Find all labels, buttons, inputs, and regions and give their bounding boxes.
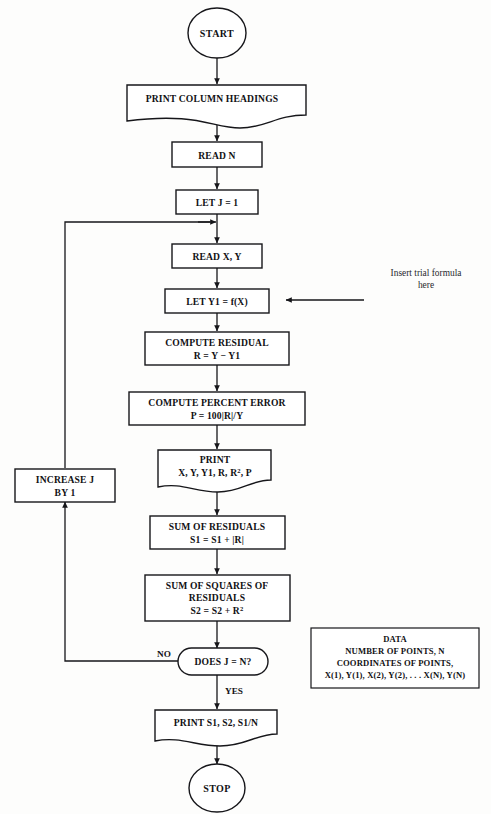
print-values-line2: X, Y, Y1, R, R2, P: [178, 467, 252, 479]
annotation-line2: here: [418, 280, 434, 290]
sum-residuals-line2: S1 = S1 + |R|: [190, 534, 244, 545]
branch-label-no: NO: [157, 649, 171, 659]
sum-squares-line3-sup: 2: [240, 605, 244, 612]
sum-residuals-line1: SUM OF RESIDUALS: [169, 521, 265, 532]
annotation-line1: Insert trial formula: [391, 268, 463, 278]
increase-j-line2: BY 1: [55, 487, 76, 498]
data-box-line3: COORDINATES OF POINTS,: [337, 658, 454, 668]
let-y1-label: LET Y1 = f(X): [186, 296, 248, 308]
sum-squares-line3-a: S2 = S2 + R: [191, 605, 241, 616]
node-print-totals[interactable]: PRINT S1, S2, S1/N: [155, 710, 277, 746]
node-compute-percent-error[interactable]: COMPUTE PERCENT ERROR P = 100|R|/Y: [129, 392, 305, 425]
compute-residual-line1: COMPUTE RESIDUAL: [165, 337, 268, 348]
node-stop[interactable]: STOP: [189, 764, 245, 812]
print-totals-label: PRINT S1, S2, S1/N: [174, 717, 258, 728]
read-xy-label: READ X, Y: [192, 251, 241, 262]
compute-percent-error-line2: P = 100|R|/Y: [191, 410, 244, 421]
node-let-j[interactable]: LET J = 1: [176, 190, 258, 214]
annotation-insert-trial-formula: Insert trial formula here: [391, 268, 463, 290]
node-decision-does-j-equal-n[interactable]: DOES J = N? NO YES: [157, 648, 268, 696]
print-values-line2-a: X, Y, Y1, R, R: [178, 467, 238, 478]
data-box-line4: X(1), Y(1), X(2), Y(2), . . . X(N), Y(N): [325, 670, 466, 680]
data-box-line1: DATA: [383, 634, 407, 644]
compute-residual-line2: R = Y − Y1: [194, 350, 241, 361]
decision-label: DOES J = N?: [195, 656, 252, 667]
sum-squares-line1: SUM OF SQUARES OF: [166, 580, 269, 591]
stop-label: STOP: [203, 783, 231, 794]
node-print-column-headings[interactable]: PRINT COLUMN HEADINGS: [127, 85, 306, 128]
node-increase-j[interactable]: INCREASE J BY 1: [15, 469, 115, 502]
increase-j-line1: INCREASE J: [36, 474, 94, 485]
start-label: START: [200, 28, 234, 39]
node-read-n[interactable]: READ N: [172, 142, 262, 167]
print-headings-label: PRINT COLUMN HEADINGS: [146, 93, 279, 104]
print-values-line1: PRINT: [200, 454, 231, 465]
node-let-y1[interactable]: LET Y1 = f(X): [165, 289, 269, 313]
node-sum-residuals[interactable]: SUM OF RESIDUALS S1 = S1 + |R|: [150, 516, 285, 549]
sum-squares-line3: S2 = S2 + R2: [191, 605, 244, 617]
print-totals-document-shape: [155, 710, 277, 746]
node-start[interactable]: START: [188, 8, 246, 58]
node-print-values[interactable]: PRINT X, Y, Y1, R, R2, P: [158, 450, 271, 492]
sum-squares-line2: RESIDUALS: [189, 592, 245, 603]
data-box-line2: NUMBER OF POINTS, N: [345, 646, 445, 656]
node-compute-residual[interactable]: COMPUTE RESIDUAL R = Y − Y1: [145, 332, 289, 365]
let-j-label: LET J = 1: [196, 197, 239, 208]
print-headings-document-shape: [127, 85, 306, 128]
print-values-line2-b: , P: [241, 467, 252, 478]
flowchart-canvas: START PRINT COLUMN HEADINGS READ N LET J…: [0, 0, 491, 814]
node-read-xy[interactable]: READ X, Y: [172, 244, 262, 268]
node-sum-squares[interactable]: SUM OF SQUARES OF RESIDUALS S2 = S2 + R2: [145, 575, 290, 621]
read-n-label: READ N: [198, 150, 235, 161]
compute-percent-error-line1: COMPUTE PERCENT ERROR: [148, 397, 286, 408]
branch-label-yes: YES: [225, 686, 243, 696]
data-box: DATA NUMBER OF POINTS, N COORDINATES OF …: [311, 628, 479, 688]
